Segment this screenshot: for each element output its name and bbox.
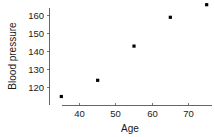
scatter-chart: 160 150 140 130 120 40 50 60 70 Age Bloo… <box>0 0 215 137</box>
data-point <box>60 95 63 98</box>
y-axis-title: Blood pressure <box>7 22 18 90</box>
y-tick-label-150: 150 <box>28 28 44 39</box>
x-axis-title: Age <box>121 123 139 134</box>
x-tick-label-70: 70 <box>183 108 194 119</box>
plot-area: 160 150 140 130 120 40 50 60 70 Age Bloo… <box>0 0 215 137</box>
y-tick-label-160: 160 <box>28 10 44 21</box>
y-tick-label-140: 140 <box>28 46 44 57</box>
data-point <box>169 16 172 19</box>
data-point <box>205 3 208 6</box>
x-tick-label-40: 40 <box>74 108 85 119</box>
x-tick-label-60: 60 <box>147 108 158 119</box>
data-point <box>96 79 99 82</box>
data-point <box>132 45 135 48</box>
y-tick-label-120: 120 <box>28 82 44 93</box>
x-tick-label-50: 50 <box>110 108 121 119</box>
data-points-group <box>60 3 209 98</box>
y-tick-label-130: 130 <box>28 64 44 75</box>
